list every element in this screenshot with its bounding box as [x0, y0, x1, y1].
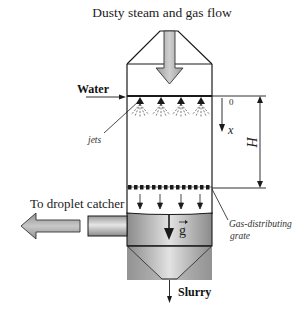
- diagram-title: Dusty steam and gas flow: [92, 5, 232, 20]
- droplet-outflow-arrow-icon: [21, 213, 80, 239]
- scrubber-diagram: Dusty steam and gas flow Water: [0, 0, 299, 318]
- height-label: H: [244, 136, 259, 148]
- water-label: Water: [77, 82, 110, 96]
- outlet-pipe: [88, 216, 127, 236]
- grate-leader-line: [212, 189, 228, 220]
- gas-inflow-arrow-icon: [156, 31, 183, 84]
- gas-distributing-grate: [127, 185, 212, 190]
- jets-label: jets: [86, 135, 101, 145]
- origin-label: 0: [229, 97, 234, 107]
- grate-label-line2: grate: [230, 231, 250, 241]
- x-axis-label: x: [227, 123, 234, 137]
- conical-bottom: [127, 246, 212, 280]
- gas-flow-arrows-icon: [138, 194, 203, 209]
- slurry-label: Slurry: [178, 285, 211, 299]
- water-jets: [131, 97, 210, 117]
- gravity-label: g: [179, 223, 186, 238]
- grate-label-line1: Gas-distributing: [229, 219, 292, 229]
- x-axis-arrow-icon: [219, 98, 225, 132]
- jets-leader-line: [104, 101, 139, 133]
- spray-column: [127, 64, 212, 214]
- slurry-outlet-arrow-icon: [167, 280, 172, 303]
- droplet-catcher-label: To droplet catcher: [30, 196, 125, 211]
